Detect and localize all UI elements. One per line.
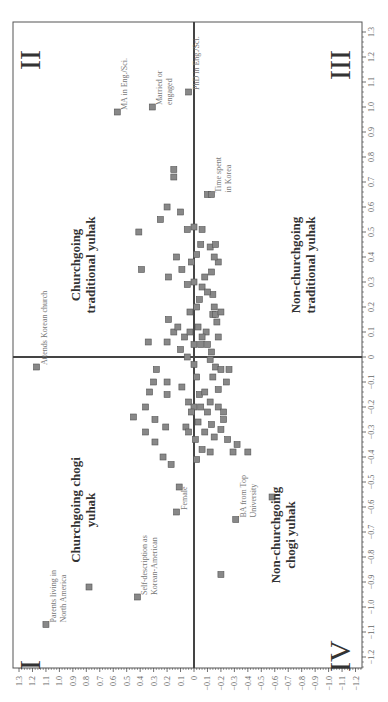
data-point	[184, 227, 190, 233]
data-point	[198, 342, 204, 348]
y-tick-label: −0.5	[367, 475, 376, 490]
data-point	[230, 449, 236, 455]
data-point	[191, 279, 197, 285]
data-point	[194, 374, 200, 380]
data-point	[152, 417, 158, 423]
data-point	[198, 242, 204, 248]
quadrant-numeral: II	[13, 50, 46, 70]
y-tick-label: 0	[367, 355, 376, 359]
y-tick-label: −0.2	[367, 400, 376, 415]
data-point	[163, 424, 169, 430]
y-tick-label: −0.4	[367, 450, 376, 465]
y-tick-label: −1.1	[367, 625, 376, 640]
data-point	[207, 357, 213, 363]
data-point	[171, 167, 177, 173]
data-point	[147, 389, 153, 395]
quadrant-numeral: III	[323, 50, 356, 80]
data-point	[191, 224, 197, 230]
y-tick-label: 0.9	[367, 127, 376, 137]
data-point	[178, 209, 184, 215]
y-tick-label: −1.2	[367, 650, 376, 665]
data-point	[202, 429, 208, 435]
data-point	[225, 437, 231, 443]
y-tick-label: −0.1	[367, 375, 376, 390]
point-label: Married orengaged	[155, 70, 174, 105]
data-point	[204, 342, 210, 348]
data-point	[213, 242, 219, 248]
point-label: Self-description asKorean-American	[140, 535, 159, 595]
x-tick-label: −0.6	[271, 676, 280, 691]
data-point	[199, 227, 205, 233]
data-point	[221, 417, 227, 423]
data-point	[198, 404, 204, 410]
y-tick-label: 0.2	[367, 302, 376, 312]
y-tick-label: −0.6	[367, 500, 376, 515]
x-tick-label: 0.9	[69, 676, 78, 686]
data-point	[179, 267, 185, 273]
point-label: MA in Eng./Sci.	[120, 58, 129, 110]
data-point	[174, 254, 180, 260]
x-tick-label: −0.3	[230, 676, 239, 691]
x-tick-label: −1.2	[352, 676, 361, 691]
data-point	[187, 329, 193, 335]
x-tick-label: 0.6	[109, 676, 118, 686]
data-point	[211, 434, 217, 440]
data-point	[165, 317, 171, 323]
data-point	[199, 447, 205, 453]
x-tick-label: 0.4	[136, 676, 145, 686]
data-point	[208, 269, 214, 275]
data-point	[179, 384, 185, 390]
y-tick-label: 1.2	[367, 52, 376, 62]
data-point	[186, 429, 192, 435]
y-tick-label: 0.6	[367, 202, 376, 212]
x-tick-label: 0.2	[163, 676, 172, 686]
data-point	[218, 367, 224, 373]
x-tick-label: −0.1	[203, 676, 212, 691]
data-point	[143, 404, 149, 410]
data-point	[223, 379, 229, 385]
data-point	[187, 309, 193, 315]
y-tick-label: −0.3	[367, 425, 376, 440]
data-point	[215, 387, 221, 393]
y-tick-label: 0.4	[367, 252, 376, 262]
data-point	[226, 367, 232, 373]
data-point	[204, 409, 210, 415]
quadrant-label: Non-churchgoingchogi yuhak	[268, 486, 298, 583]
data-point	[188, 259, 194, 265]
point-label: Parents living inNorth America	[49, 570, 68, 622]
data-point	[221, 409, 227, 415]
data-point	[202, 389, 208, 395]
data-point	[165, 274, 171, 280]
data-point	[215, 334, 221, 340]
data-point	[202, 274, 208, 280]
data-point	[86, 584, 92, 590]
data-point	[188, 409, 194, 415]
x-tick-label: 0.3	[150, 676, 159, 686]
data-point	[191, 342, 197, 348]
data-point	[208, 349, 214, 355]
x-tick-label: −0.8	[298, 676, 307, 691]
quadrant-label: Churchgoing chogiyuhak	[68, 457, 98, 563]
data-point	[160, 454, 166, 460]
data-point	[151, 379, 157, 385]
quadrant-label: Churchgoingtraditional yuhak	[68, 216, 98, 314]
plot-frame	[13, 22, 362, 668]
data-point	[191, 362, 197, 368]
x-tick-label: 1.1	[42, 676, 51, 686]
x-tick-label: 0.1	[177, 676, 186, 686]
x-tick-label: −1.0	[325, 676, 334, 691]
x-tick-label: 1.2	[28, 676, 37, 686]
y-tick-label: 0.5	[367, 227, 376, 237]
data-point	[153, 367, 159, 373]
data-point	[145, 339, 151, 345]
y-tick-label: −0.9	[367, 575, 376, 590]
data-point	[171, 174, 177, 180]
data-point	[211, 304, 217, 310]
y-tick-label: 1.1	[367, 77, 376, 87]
data-point	[195, 324, 201, 330]
point-label: BA from TopUniversity	[239, 475, 258, 517]
quadrant-label: Non-churchgoingtraditional yuhak	[288, 216, 318, 314]
y-tick-label: 0.7	[367, 177, 376, 187]
data-point	[143, 429, 149, 435]
y-tick-label: 0.1	[367, 327, 376, 337]
